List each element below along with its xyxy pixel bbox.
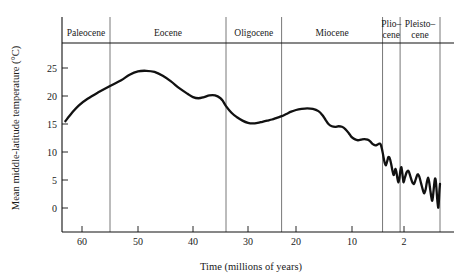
epoch-label-pleistocene: Pleisto–	[405, 19, 436, 29]
temperature-curve	[65, 71, 440, 208]
epoch-boundary-lines	[110, 17, 440, 232]
x-axis-title: Time (millions of years)	[200, 261, 302, 273]
y-tick-label: 5	[52, 175, 57, 186]
epoch-label-miocene: Miocene	[315, 28, 348, 38]
x-tick-label: 10	[347, 236, 357, 247]
y-tick-label: 10	[47, 147, 57, 158]
epoch-label-pliocene: cene	[383, 30, 400, 40]
y-tick-label: 15	[47, 119, 57, 130]
x-axis-ticks	[82, 226, 404, 232]
axis-lines	[62, 17, 454, 232]
x-tick-label: 20	[291, 236, 301, 247]
x-axis-tick-labels: 6050403020102	[77, 236, 407, 247]
epoch-label-pliocene: Plio–	[381, 19, 401, 29]
epoch-label-paleocene: Paleocene	[67, 28, 106, 38]
epoch-label-pleistocene: cene	[411, 30, 428, 40]
y-axis-ticks	[62, 68, 68, 208]
y-axis-title: Mean middle-latitude temperature (°C)	[10, 45, 22, 210]
y-tick-label: 20	[47, 91, 57, 102]
y-axis-tick-labels: 0510152025	[47, 63, 57, 214]
x-tick-label: 60	[77, 236, 87, 247]
y-tick-label: 0	[52, 203, 57, 214]
epoch-label-eocene: Eocene	[154, 28, 182, 38]
x-tick-label: 50	[133, 236, 143, 247]
chart-canvas: PaleoceneEoceneOligoceneMiocenePlio–cene…	[0, 0, 459, 278]
epoch-label-oligocene: Oligocene	[234, 28, 273, 38]
y-tick-label: 25	[47, 63, 57, 74]
temperature-chart-figure: PaleoceneEoceneOligoceneMiocenePlio–cene…	[0, 0, 459, 278]
x-tick-label: 30	[243, 236, 253, 247]
x-tick-label: 40	[188, 236, 198, 247]
epoch-label-group: PaleoceneEoceneOligoceneMiocenePlio–cene…	[67, 19, 436, 40]
x-tick-label: 2	[402, 236, 407, 247]
